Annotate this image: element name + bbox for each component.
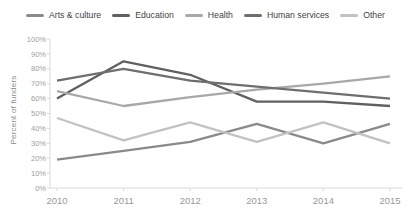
y-tick-label: 10%	[31, 169, 46, 178]
legend-item-education: Education	[112, 10, 174, 20]
y-tick-label: 30%	[31, 139, 46, 148]
y-tick-label: 70%	[31, 79, 46, 88]
chart-legend: Arts & cultureEducationHealthHuman servi…	[26, 6, 414, 24]
legend-label: Health	[208, 10, 233, 20]
legend-label: Human services	[267, 10, 329, 20]
chart-plot-area: 100%90%80%70%60%50%40%30%20%10%0%2010201…	[0, 24, 414, 219]
y-tick-label: 20%	[31, 154, 46, 163]
legend-swatch-icon	[244, 14, 262, 17]
legend-swatch-icon	[26, 14, 44, 17]
x-tick-label: 2013	[246, 195, 267, 206]
y-tick-label: 80%	[31, 64, 46, 73]
x-tick-label: 2015	[379, 195, 400, 206]
line-chart-figure: Arts & cultureEducationHealthHuman servi…	[0, 0, 414, 219]
x-tick-label: 2011	[113, 195, 133, 206]
legend-item-arts-culture: Arts & culture	[26, 10, 101, 20]
legend-label: Other	[363, 10, 385, 20]
series-line-arts-culture	[57, 124, 390, 160]
legend-swatch-icon	[340, 14, 358, 17]
legend-swatch-icon	[185, 14, 203, 17]
legend-item-other: Other	[340, 10, 385, 20]
y-tick-label: 40%	[31, 124, 46, 133]
y-tick-label: 50%	[31, 109, 46, 118]
y-tick-label: 60%	[31, 94, 46, 103]
y-tick-label: 90%	[31, 50, 46, 59]
x-tick-label: 2012	[180, 195, 201, 206]
legend-swatch-icon	[112, 14, 130, 17]
y-tick-label: 100%	[27, 35, 47, 44]
legend-item-health: Health	[185, 10, 233, 20]
legend-label: Arts & culture	[49, 10, 101, 20]
x-tick-label: 2014	[313, 195, 334, 206]
legend-item-human-services: Human services	[244, 10, 329, 20]
series-line-health	[57, 76, 390, 106]
y-tick-label: 0%	[35, 184, 46, 193]
legend-label: Education	[135, 10, 174, 20]
x-tick-label: 2010	[46, 195, 67, 206]
